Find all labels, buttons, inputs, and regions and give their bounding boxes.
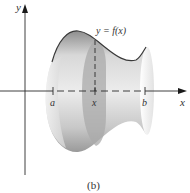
y-axis-arrow-icon bbox=[22, 4, 28, 13]
tick-label-a: a bbox=[50, 97, 55, 108]
tick-label-x: x bbox=[91, 97, 97, 108]
solid-of-revolution-figure: y x a x b y = f(x) (b) bbox=[0, 0, 190, 193]
tick-label-b: b bbox=[142, 97, 147, 108]
y-axis-label: y bbox=[15, 1, 21, 13]
x-axis-arrow-icon bbox=[178, 88, 187, 94]
x-axis-label: x bbox=[179, 96, 185, 108]
figure-caption: (b) bbox=[87, 179, 100, 192]
curve-label: y = f(x) bbox=[95, 25, 127, 37]
